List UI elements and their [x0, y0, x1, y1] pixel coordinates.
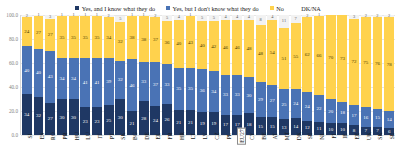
segment-value-label: 7	[295, 17, 297, 21]
segment-value-label: 33	[165, 82, 170, 87]
bar-column[interactable]: 8482915	[256, 15, 266, 135]
segment-yes-dont-know: 29	[256, 82, 266, 117]
bar-column[interactable]: 7552414	[291, 15, 301, 135]
x-axis-tick-label: SK	[377, 132, 383, 139]
bar-column[interactable]: 1384621	[127, 15, 137, 135]
bar-column[interactable]: 2373724	[150, 15, 160, 135]
x-axis-tick-label: HR	[179, 132, 185, 140]
segment-value-label: 27	[48, 32, 53, 37]
x-axis-tick-label: AT	[272, 132, 278, 139]
bar-column[interactable]: 4403521	[174, 15, 184, 135]
segment-value-label: 22	[317, 106, 322, 111]
segment-yes-know: 23	[92, 107, 102, 135]
x-axis-tick-label: LT	[190, 133, 196, 140]
segment-value-label: 17	[223, 122, 228, 127]
segment-yes-dont-know: 35	[186, 68, 196, 110]
segment-yes-dont-know: 36	[197, 69, 207, 112]
x-axis-tick: SK	[115, 135, 125, 167]
segment-value-label: 40	[36, 70, 41, 75]
x-axis-tick-label: DK	[296, 132, 302, 140]
bar-column[interactable]: 11512513	[279, 15, 289, 135]
segment-value-label: 38	[130, 35, 135, 40]
y-axis-tick-label: 40.0	[9, 84, 18, 90]
bar-column[interactable]: 275167	[361, 15, 371, 135]
x-axis-tick: NL	[314, 135, 324, 167]
segment-value-label: 25	[281, 102, 286, 107]
bar-column[interactable]: 1353430	[69, 15, 79, 135]
segment-yes-dont-know: 32	[115, 61, 125, 99]
x-axis-tick-label: CZ	[214, 132, 220, 139]
segment-no: 75	[361, 17, 371, 107]
segment-yes-know: 27	[45, 103, 55, 135]
segment-value-label: 48	[258, 51, 263, 56]
segment-no: 51	[279, 28, 289, 89]
x-axis-tick-label: SK	[120, 132, 126, 139]
bar-column[interactable]: 4542715	[267, 15, 277, 135]
bar-column[interactable]: 4463317	[232, 15, 242, 135]
segment-value-label: 25	[106, 118, 111, 123]
segment-value-label: 75	[363, 60, 368, 65]
x-axis-tick: IE	[337, 135, 347, 167]
segment-value-label: 21	[176, 120, 181, 125]
segment-value-label: 73	[340, 56, 345, 61]
segment-value-label: 78	[387, 62, 392, 67]
bar-column[interactable]: 4483018	[244, 15, 254, 135]
x-axis-tick: EE	[349, 135, 359, 167]
x-axis-tick: HR	[174, 135, 184, 167]
bar-column[interactable]: 1354123	[80, 15, 90, 135]
bar-column[interactable]: 731810	[337, 15, 347, 135]
segment-yes-know: 21	[186, 110, 196, 135]
segment-yes-know: 28	[139, 101, 149, 135]
bar-column[interactable]: 1354123	[92, 15, 102, 135]
segment-yes-know: 30	[69, 99, 79, 135]
segment-yes-dont-know: 33	[139, 62, 149, 102]
segment-value-label: 5	[166, 16, 168, 20]
segment-value-label: 39	[106, 79, 111, 84]
segment-no: 35	[92, 16, 102, 58]
bar-column[interactable]: 1274032	[34, 15, 44, 135]
segment-value-label: 30	[118, 115, 123, 120]
bar-column[interactable]: 702010	[326, 15, 336, 135]
x-axis-tick-label: SE	[307, 133, 313, 140]
legend-label-dkna: DK/NA	[301, 5, 321, 12]
bar-column[interactable]: 5363326	[162, 15, 172, 135]
bar-column[interactable]: 1383328	[139, 15, 149, 135]
bar-column[interactable]: 2343925	[104, 15, 114, 135]
x-axis-tick: BG	[127, 135, 137, 167]
bar-column[interactable]: 5403619	[197, 15, 207, 135]
bar-column[interactable]: 278146	[384, 15, 394, 135]
segment-value-label: 35	[176, 86, 181, 91]
segment-yes-dont-know: 46	[127, 59, 137, 111]
bar-column[interactable]: 276157	[373, 15, 383, 135]
segment-value-label: 37	[153, 37, 158, 42]
segment-value-label: 15	[375, 115, 380, 120]
bar-column[interactable]: 1662211	[314, 15, 324, 135]
segment-yes-dont-know: 14	[384, 111, 394, 128]
bar-column[interactable]: 372178	[349, 15, 359, 135]
x-axis-tick: PT	[104, 135, 114, 167]
segment-yes-dont-know: 16	[361, 107, 371, 126]
segment-yes-dont-know: 27	[267, 85, 277, 117]
bar-column[interactable]: 4463317	[221, 15, 231, 135]
segment-value-label: 48	[246, 46, 251, 51]
x-axis-tick: SK	[373, 135, 383, 167]
bar-column[interactable]: 1353430	[57, 15, 67, 135]
bar-column[interactable]: 2244034	[22, 15, 32, 135]
segment-value-label: 72	[352, 59, 357, 64]
segment-yes-dont-know: 35	[174, 68, 184, 110]
bar-column[interactable]: 5323230	[115, 15, 125, 135]
bar-column[interactable]: 1433521	[186, 15, 196, 135]
segment-value-label: 36	[200, 88, 205, 93]
segment-value-label: 66	[317, 53, 322, 58]
segment-yes-dont-know: 30	[244, 77, 254, 113]
bar-column[interactable]: 2622412	[302, 15, 312, 135]
segment-value-label: 40	[176, 41, 181, 46]
segment-value-label: 32	[36, 113, 41, 118]
x-axis-tick-label: HU	[74, 132, 80, 140]
bar-column[interactable]: 3274327	[45, 15, 55, 135]
segment-no: 78	[384, 17, 394, 111]
bar-column[interactable]: 5423419	[209, 15, 219, 135]
plot-area: 2244034127403232743271353430135343013541…	[21, 15, 395, 135]
segment-value-label: 24	[24, 29, 29, 34]
x-axis-tick: HU	[69, 135, 79, 167]
